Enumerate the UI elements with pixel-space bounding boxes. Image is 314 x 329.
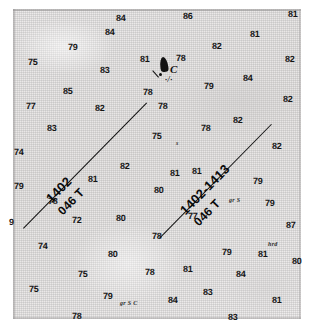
sounding-value: 80 [116, 214, 126, 223]
sounding-value: 82 [283, 95, 293, 104]
sounding-value: 87 [286, 221, 296, 230]
sounding-value: 84 [243, 74, 253, 83]
sounding-value: 79 [103, 292, 113, 301]
sounding-value: 75 [28, 58, 38, 67]
sounding-value: 82 [120, 162, 130, 171]
station-label: C [170, 64, 177, 75]
sounding-value: 77 [26, 102, 36, 111]
sounding-value: 84 [236, 270, 246, 279]
sounding-value: 81 [250, 30, 260, 39]
sounding-value: 81 [183, 265, 193, 274]
sounding-value: 80 [154, 186, 164, 195]
sounding-value: 81 [258, 250, 268, 259]
sounding-value: 83 [203, 288, 213, 297]
sounding-value: 82 [272, 142, 282, 151]
sounding-value: 78 [72, 312, 82, 321]
paper-edge-left [13, 9, 15, 319]
sounding-value: 83 [47, 124, 57, 133]
paper-edge-right [299, 9, 301, 319]
sounding-value: 75 [78, 270, 88, 279]
sounding-value: 83 [228, 313, 238, 322]
seabed-character-note: hrd [268, 241, 278, 247]
sounding-value: 75 [29, 285, 39, 294]
station-position-dot-icon [159, 73, 162, 76]
sounding-value: 74 [14, 148, 24, 157]
chart-canvas: 8486818481798275838178828578798477827882… [0, 0, 314, 329]
sounding-value: 81 [170, 169, 180, 178]
sounding-value: 80 [108, 250, 118, 259]
sounding-value: 78 [145, 268, 155, 277]
sounding-value: 81 [140, 55, 150, 64]
sounding-value: 78 [158, 102, 168, 111]
sounding-value: 75 [152, 132, 162, 141]
paper-edge-bottom [13, 317, 301, 319]
sounding-value: 85 [63, 87, 73, 96]
sounding-value: 84 [116, 14, 126, 23]
sounding-value: 9 [9, 218, 14, 227]
sounding-value: 79 [204, 82, 214, 91]
sounding-value: 78 [143, 88, 153, 97]
sounding-value: 81 [88, 175, 98, 184]
sounding-value: 81 [272, 296, 282, 305]
sounding-value: 79 [265, 199, 275, 208]
sounding-value: 83 [100, 66, 110, 75]
seabed-character-note: gr S [229, 197, 240, 203]
sounding-value: 78 [176, 54, 186, 63]
sounding-value: 82 [212, 42, 222, 51]
seabed-character-note: s [176, 140, 179, 146]
sounding-value: 82 [233, 116, 243, 125]
sounding-value: 86 [183, 12, 193, 21]
sounding-value: 81 [192, 167, 202, 176]
sounding-value: 84 [168, 296, 178, 305]
sounding-value: 80 [292, 257, 302, 266]
sounding-value: 79 [253, 177, 263, 186]
sounding-value: 79 [68, 43, 78, 52]
seabed-character-note: gr S C [120, 300, 137, 306]
sounding-value: 72 [72, 216, 82, 225]
sounding-value: 79 [14, 182, 24, 191]
sounding-value: 81 [288, 10, 298, 19]
sounding-value: 79 [222, 248, 232, 257]
sounding-value: 82 [95, 104, 105, 113]
station-sub-note: ·/· [165, 76, 173, 84]
sounding-value: 82 [285, 55, 295, 64]
sounding-value: 74 [38, 242, 48, 251]
sounding-value: 84 [105, 28, 115, 37]
scanned-paper-background [13, 9, 301, 319]
sounding-value: 78 [201, 124, 211, 133]
paper-edge-top [13, 9, 301, 11]
